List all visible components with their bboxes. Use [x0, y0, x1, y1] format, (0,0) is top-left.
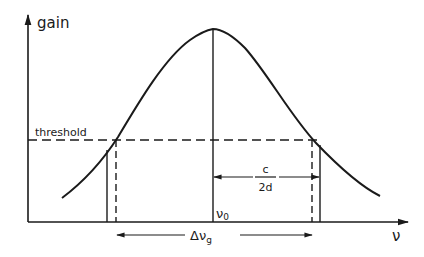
mode-spacing-numerator: c — [262, 163, 268, 176]
x-axis-label: ν — [392, 227, 400, 245]
threshold-label: threshold — [35, 126, 87, 139]
bandwidth-label: Δνg — [190, 228, 212, 245]
gain-diagram: gain threshold c 2d ν0 Δνg ν — [0, 0, 424, 257]
center-frequency-label: ν0 — [216, 206, 229, 222]
gain-curve — [62, 29, 380, 198]
y-axis-label: gain — [37, 14, 69, 32]
mode-spacing-denominator: 2d — [259, 181, 273, 194]
